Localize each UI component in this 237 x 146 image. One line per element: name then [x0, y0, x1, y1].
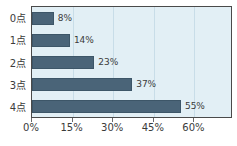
y-axis-tick-label: 1点 — [0, 28, 29, 50]
bar — [32, 34, 70, 47]
bar-value-label: 14% — [74, 35, 94, 45]
bar-value-label: 23% — [98, 57, 118, 67]
y-axis-tick-label: 3点 — [0, 73, 29, 95]
bar — [32, 78, 132, 91]
y-axis-tick-labels: 0点 1点 2点 3点 4点 — [0, 6, 29, 118]
bar-value-label: 37% — [136, 79, 156, 89]
bar — [32, 56, 94, 69]
y-axis-tick-label: 2点 — [0, 51, 29, 73]
x-axis-tick-label: 45% — [142, 122, 164, 133]
x-axis-tick-label: 30% — [101, 122, 123, 133]
y-axis-tick-label: 4点 — [0, 96, 29, 118]
bar — [32, 100, 181, 113]
x-axis-tick-label: 15% — [60, 122, 82, 133]
y-axis-tick-label: 0点 — [0, 6, 29, 28]
bar-row: 55% — [32, 95, 231, 117]
x-axis-tick-label: 0% — [23, 122, 39, 133]
bar-row: 8% — [32, 7, 231, 29]
bar-chart: 0点 1点 2点 3点 4点 8% 14% 23% 37% — [0, 0, 237, 146]
bar-row: 37% — [32, 73, 231, 95]
bar-row: 23% — [32, 51, 231, 73]
x-axis-tick-labels: 0%15%30%45%60% — [31, 122, 232, 138]
bar — [32, 12, 54, 25]
bars-layer: 8% 14% 23% 37% 55% — [32, 7, 231, 117]
bar-value-label: 55% — [185, 101, 205, 111]
bar-row: 14% — [32, 29, 231, 51]
plot-area: 8% 14% 23% 37% 55% — [31, 6, 232, 118]
x-axis-tick-label: 60% — [182, 122, 204, 133]
bar-value-label: 8% — [58, 13, 72, 23]
